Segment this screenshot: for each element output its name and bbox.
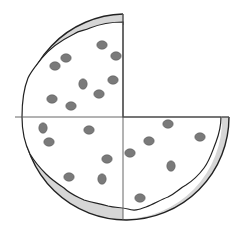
pepperoni-topping xyxy=(102,155,112,163)
pepperoni-topping xyxy=(135,194,145,202)
pizza-diagram: Pizza cut into quarters with one quarter… xyxy=(0,0,242,231)
pepperoni-topping xyxy=(125,149,135,157)
pepperoni-topping xyxy=(79,79,87,89)
pepperoni-topping xyxy=(163,120,173,128)
pepperoni-topping xyxy=(167,161,175,171)
pepperoni-topping xyxy=(144,137,154,145)
pepperoni-topping xyxy=(98,174,106,184)
pepperoni-topping xyxy=(108,76,118,84)
pepperoni-topping xyxy=(84,126,94,134)
pepperoni-topping xyxy=(44,138,54,146)
pepperoni-topping xyxy=(111,52,121,60)
pepperoni-topping xyxy=(64,173,74,181)
pepperoni-topping xyxy=(97,41,107,49)
pepperoni-topping xyxy=(47,95,57,103)
pepperoni-topping xyxy=(39,123,47,133)
pepperoni-topping xyxy=(94,90,104,98)
pepperoni-topping xyxy=(61,54,71,62)
pepperoni-topping xyxy=(195,133,205,141)
pepperoni-topping xyxy=(66,102,76,110)
pizza-graphic xyxy=(0,0,242,231)
pepperoni-topping xyxy=(50,62,60,70)
